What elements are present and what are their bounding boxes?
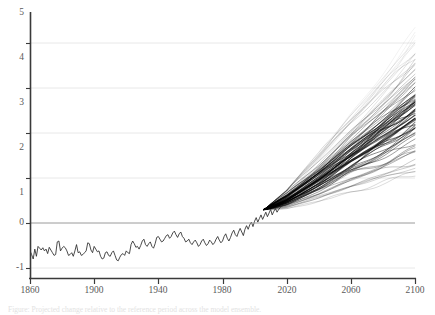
x-tick-label-2020: 2020	[267, 286, 307, 296]
x-tick-label-1980: 1980	[202, 286, 242, 296]
x-tick-label-2100: 2100	[395, 286, 435, 296]
y-axis-ticks	[26, 0, 30, 269]
chart-plot-area	[0, 0, 435, 315]
x-tick-label-1860: 1860	[10, 286, 50, 296]
y-tick-label-0: 0	[2, 218, 24, 228]
chart-figure: 5 4 3 2 1 0 -1 1860 1900 1940 1980 2020 …	[0, 0, 435, 315]
y-tick-label-4: 4	[2, 53, 24, 63]
historical-observation-line	[30, 208, 280, 261]
ensemble-fan-lines	[264, 28, 415, 210]
y-tick-label-3: 3	[2, 98, 24, 108]
y-tick-label-2: 2	[2, 143, 24, 153]
x-tick-label-1900: 1900	[74, 286, 114, 296]
y-tick-label-minus1: -1	[2, 263, 24, 273]
y-tick-label-5: 5	[2, 8, 24, 18]
x-tick-label-2060: 2060	[331, 286, 371, 296]
x-tick-label-1940: 1940	[138, 286, 178, 296]
y-tick-label-1: 1	[2, 188, 24, 198]
ensemble-member	[264, 65, 415, 209]
figure-caption: Figure: Projected change relative to the…	[8, 306, 428, 314]
